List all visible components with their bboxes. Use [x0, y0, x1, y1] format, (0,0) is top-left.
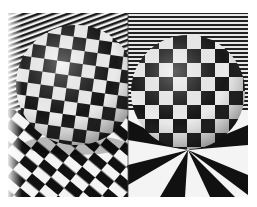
render-comparison-figure — [0, 0, 257, 207]
right-panel — [128, 13, 248, 197]
left-panel — [8, 13, 136, 197]
